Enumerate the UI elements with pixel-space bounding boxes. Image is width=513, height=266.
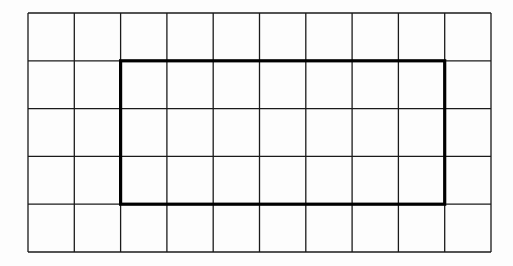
grid-diagram [0,0,513,266]
bold-rectangle [121,61,445,204]
grid-lines [28,13,491,252]
